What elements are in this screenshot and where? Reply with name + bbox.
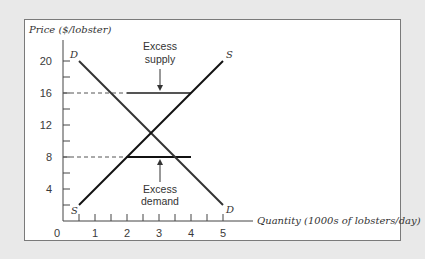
x-tick-2: 2: [124, 227, 130, 239]
x-tick-4: 4: [188, 227, 194, 239]
x-ticks: [79, 214, 223, 221]
excess-supply-text-2: supply: [145, 53, 176, 65]
demand-label-bottom: D: [225, 204, 234, 215]
excess-demand-text-1: Excess: [143, 183, 177, 195]
y-tick-8: 8: [46, 151, 52, 163]
x-tick-0: 0: [54, 227, 60, 239]
x-tick-5: 5: [220, 227, 226, 239]
excess-supply-text-1: Excess: [143, 40, 177, 52]
y-axis-title: Price ($/lobster): [28, 24, 112, 35]
supply-label-top: S: [226, 49, 233, 60]
supply-demand-chart: 20 16 12 8 4 0 1 2 3 4 5 Price ($/lobste…: [0, 0, 425, 259]
supply-label-bottom: S: [71, 205, 78, 216]
x-tick-3: 3: [156, 227, 162, 239]
y-tick-16: 16: [40, 87, 52, 99]
excess-demand-text-2: demand: [141, 195, 179, 207]
y-tick-4: 4: [46, 183, 52, 195]
y-ticks: [63, 61, 70, 205]
x-axis-title: Quantity (1000s of lobsters/day): [257, 215, 421, 226]
y-tick-20: 20: [40, 55, 52, 67]
arrow-down-icon: [157, 85, 163, 91]
demand-label-top: D: [69, 49, 78, 60]
y-tick-12: 12: [40, 119, 52, 131]
arrow-up-icon: [157, 159, 163, 165]
x-tick-1: 1: [92, 227, 98, 239]
